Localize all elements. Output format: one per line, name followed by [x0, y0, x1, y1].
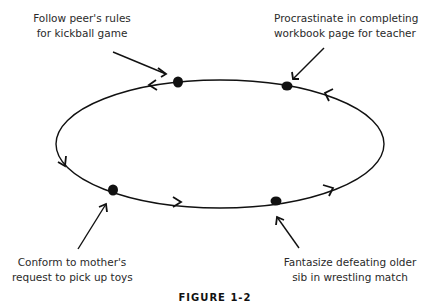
node-dot-kickball [173, 77, 183, 88]
node-dot-toys [108, 185, 118, 196]
node-label-kickball: Follow peer's rules for kickball game [22, 11, 142, 41]
pointer-arrow-toys [78, 204, 107, 249]
label-line: request to pick up toys [12, 270, 132, 285]
node-label-wrestling: Fantasize defeating older sib in wrestli… [280, 255, 420, 285]
node-dot-workbook [282, 82, 293, 91]
cycle-ellipse [56, 80, 384, 208]
direction-arrow-icon [323, 185, 333, 196]
node-dot-wrestling [271, 197, 282, 206]
label-line: Fantasize defeating older [280, 255, 420, 270]
label-line: sib in wrestling match [280, 270, 420, 285]
label-line: workbook page for teacher [274, 26, 414, 41]
node-label-workbook: Procrastinate in completing workbook pag… [274, 11, 414, 41]
label-line: for kickball game [22, 26, 142, 41]
label-line: Follow peer's rules [22, 11, 142, 26]
label-line: Procrastinate in completing [274, 11, 414, 26]
pointer-arrow-workbook [292, 48, 324, 79]
direction-arrow-icon [325, 89, 333, 101]
figure-caption: FIGURE 1-2 [0, 292, 430, 303]
label-line: Conform to mother's [12, 255, 132, 270]
node-label-toys: Conform to mother's request to pick up t… [12, 255, 132, 285]
pointer-arrow-kickball [113, 52, 166, 77]
pointer-arrow-wrestling [276, 217, 299, 248]
